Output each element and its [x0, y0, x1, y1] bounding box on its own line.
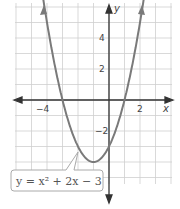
- x-tick-2: 2: [137, 104, 143, 114]
- graph: y x −4 2 4 2 −2 y = x² + 2x − 3: [0, 0, 180, 209]
- y-axis-label: y: [113, 3, 121, 14]
- x-axis-label: x: [162, 103, 169, 114]
- equation-callout: y = x² + 2x − 3: [11, 152, 103, 191]
- y-tick-2: 2: [99, 64, 105, 74]
- equation-label: y = x² + 2x − 3: [15, 175, 102, 188]
- y-tick-4: 4: [99, 33, 105, 43]
- grid: [15, 3, 172, 184]
- arrow-up-right-icon: [138, 5, 145, 15]
- y-tick-neg2: −2: [95, 126, 108, 136]
- x-tick-neg4: −4: [36, 104, 50, 114]
- arrow-up-left-icon: [40, 5, 47, 15]
